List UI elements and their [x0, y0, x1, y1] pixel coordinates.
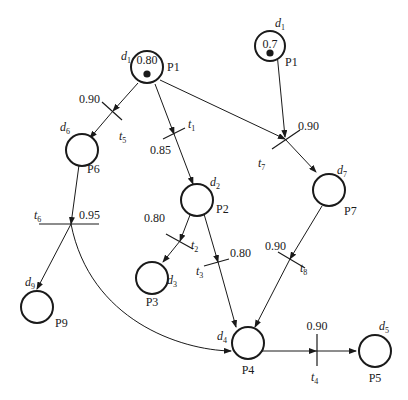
label-p1-second: P1 — [285, 55, 298, 69]
arc-p6-t6 — [71, 165, 79, 224]
name-t5: t5 — [119, 129, 126, 145]
arc-p2-t2 — [180, 215, 190, 241]
cf-t6: 0.95 — [79, 208, 100, 222]
token-icon — [143, 70, 150, 77]
arc-t6-p9 — [37, 224, 71, 289]
prop-d7: d7 — [337, 163, 347, 179]
arc-t3-p4 — [218, 262, 236, 327]
prop-d1: d1 — [121, 49, 131, 65]
cf-t5: 0.90 — [79, 92, 100, 106]
place-p2 — [181, 184, 213, 216]
certainty-p1: 0.80 — [137, 53, 158, 67]
arc-p1-t7 — [160, 80, 285, 139]
arc-p1-t1 — [155, 84, 174, 134]
name-t7: t7 — [258, 156, 265, 172]
cf-t3: 0.80 — [230, 246, 251, 260]
prop-d6: d6 — [60, 120, 70, 136]
cf-t7: 0.90 — [298, 119, 319, 133]
label-p2: P2 — [216, 202, 229, 216]
transition-t2 — [166, 234, 193, 249]
name-t2: t2 — [191, 238, 198, 254]
cf-t8: 0.90 — [265, 239, 286, 253]
arc-p2-t3 — [204, 214, 218, 262]
transition-t1 — [163, 128, 185, 139]
certainty-p1-second: 0.7 — [263, 37, 278, 51]
place-p3 — [136, 262, 168, 294]
label-p6: P6 — [87, 162, 100, 176]
petri-net-diagram: 0.80 P1 d1 0.7 P1 d1 P2 d2 P3 d3 P4 d4 P… — [0, 0, 408, 400]
label-p3: P3 — [146, 295, 159, 309]
transition-t3 — [204, 259, 229, 266]
places — [21, 31, 391, 367]
place-p4 — [232, 327, 264, 359]
arc-t2-p3 — [163, 241, 180, 262]
arc-t1-p2 — [174, 134, 193, 184]
arc-p1-t5 — [113, 83, 138, 111]
arc-t8-p4 — [255, 259, 290, 327]
arc-p7-t8 — [290, 206, 322, 259]
label-p1: P1 — [167, 60, 180, 74]
arc-t7-p7 — [285, 139, 316, 172]
cf-t1: 0.85 — [150, 143, 171, 157]
prop-d4: d4 — [217, 329, 227, 345]
name-t1: t1 — [188, 117, 195, 133]
prop-d1-second: d1 — [275, 16, 285, 32]
cf-t4: 0.90 — [307, 319, 328, 333]
cf-t2: 0.80 — [144, 211, 165, 225]
transition-t7 — [272, 130, 300, 149]
place-p5 — [359, 335, 391, 367]
prop-d5: d5 — [379, 319, 389, 335]
name-t4: t4 — [311, 370, 318, 386]
prop-d2: d2 — [210, 175, 220, 191]
label-p7: P7 — [344, 204, 357, 218]
label-p4: P4 — [242, 363, 255, 377]
name-t6: t6 — [34, 208, 41, 224]
place-p7 — [313, 174, 345, 206]
name-t8: t8 — [300, 261, 307, 277]
name-t3: t3 — [196, 264, 203, 280]
arc-t5-p6 — [90, 111, 113, 138]
prop-d9: d9 — [25, 275, 35, 291]
label-p5: P5 — [369, 371, 382, 385]
prop-d3: d3 — [167, 273, 177, 289]
label-p9: P9 — [55, 316, 68, 330]
place-p9 — [21, 291, 53, 323]
